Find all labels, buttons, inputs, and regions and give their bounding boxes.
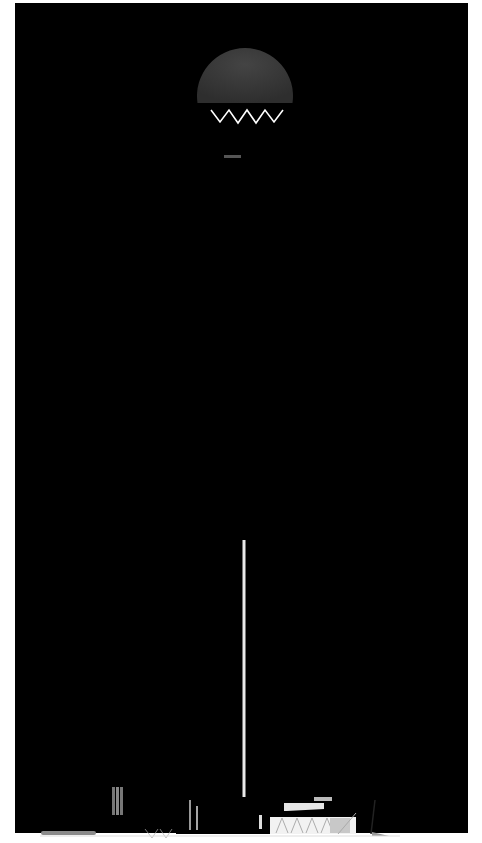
right-pavilion-slats bbox=[330, 818, 350, 833]
podium-left-block bbox=[176, 797, 245, 833]
stack-group bbox=[112, 787, 123, 815]
observation-bar bbox=[224, 155, 241, 158]
stack bbox=[116, 787, 119, 815]
tower bbox=[176, 14, 314, 834]
stack bbox=[120, 787, 123, 815]
podium-door bbox=[259, 815, 262, 829]
stack bbox=[112, 787, 115, 815]
right-annex-step bbox=[314, 797, 332, 801]
bench-row bbox=[41, 831, 96, 835]
tower-elevation-drawing bbox=[0, 0, 482, 843]
sky-bridge bbox=[197, 103, 293, 110]
